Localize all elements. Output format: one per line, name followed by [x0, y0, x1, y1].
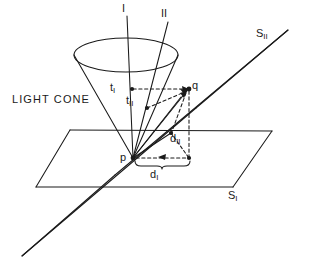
plane-S-II-label: SII: [256, 28, 268, 41]
dist-I-label: dI: [150, 169, 158, 182]
worldline-p-q: [133, 92, 186, 158]
dist-II-subscript: II: [176, 137, 180, 146]
point-q-label: q: [192, 80, 198, 91]
d-I-brace: [135, 161, 190, 169]
time-II-label: tII: [126, 95, 133, 108]
dist-I-subscript: I: [156, 173, 158, 182]
d-I-endpoint-dot: [187, 156, 191, 160]
axis-I-label: I: [122, 3, 125, 14]
light-cone-diagram: LIGHT CONE I II SII SI tI tII p q dII dI: [0, 0, 311, 273]
plane-S-I-label: SI: [228, 190, 238, 203]
dist-II-label: dII: [170, 133, 181, 146]
time-I-subscript: I: [113, 86, 115, 95]
light-cone-label: LIGHT CONE: [12, 94, 90, 105]
time-II-subscript: II: [129, 99, 133, 108]
point-p-dot: [131, 156, 136, 161]
plane-S-II-subscript: II: [263, 32, 267, 41]
t-I-dot: [130, 87, 134, 91]
t-II-dot: [145, 106, 149, 110]
time-I-label: tI: [110, 82, 115, 95]
point-q-dot: [187, 87, 192, 92]
axis-II-label: II: [161, 8, 167, 19]
point-p-label: p: [120, 152, 126, 163]
plane-S-I-subscript: I: [235, 194, 237, 203]
